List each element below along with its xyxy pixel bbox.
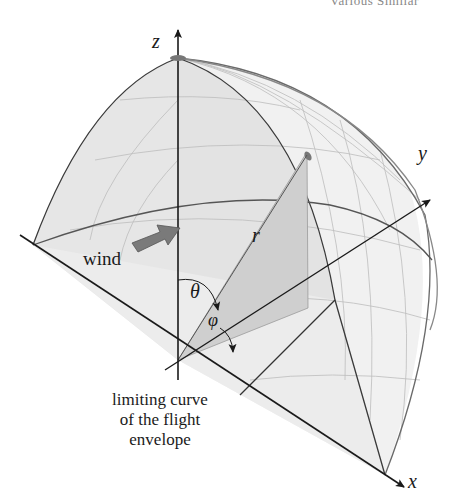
z-axis-label: z [152,30,160,53]
x-axis-label: x [408,470,417,493]
zenith-marker [170,55,186,61]
y-axis-label: y [418,142,427,165]
caption-line: limiting curve [90,390,230,410]
caption-line: envelope [90,430,230,450]
caption-line: of the flight [90,410,230,430]
wind-label: wind [83,248,121,270]
radius-label: r [252,224,260,247]
theta-label: θ [190,280,200,303]
flight-envelope-caption: limiting curve of the flight envelope [90,390,230,450]
phi-label: φ [208,310,218,331]
